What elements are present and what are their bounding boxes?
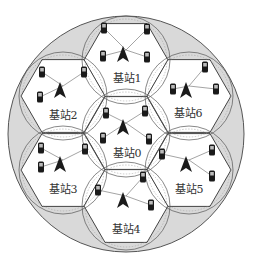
station-label-0: 基站0 bbox=[113, 144, 142, 160]
mobile-device-screen bbox=[210, 172, 214, 176]
mobile-device-screen bbox=[101, 134, 105, 138]
mobile-device-screen bbox=[101, 52, 105, 56]
mobile-device-screen bbox=[145, 25, 149, 29]
station-label-6: 基站6 bbox=[174, 104, 203, 120]
mobile-device-screen bbox=[96, 186, 100, 190]
mobile-device-screen bbox=[39, 144, 43, 148]
mobile-device-screen bbox=[38, 93, 42, 97]
mobile-device-screen bbox=[203, 63, 207, 67]
mobile-device-screen bbox=[83, 145, 87, 149]
mobile-device-screen bbox=[104, 109, 108, 113]
mobile-device-screen bbox=[171, 85, 175, 89]
mobile-device-screen bbox=[102, 24, 106, 28]
mobile-device-screen bbox=[40, 68, 44, 72]
mobile-device-screen bbox=[39, 163, 43, 167]
mobile-device-screen bbox=[210, 146, 214, 150]
mobile-device-screen bbox=[82, 68, 86, 72]
station-label-3: 基站3 bbox=[49, 180, 78, 196]
mobile-device-screen bbox=[149, 201, 153, 205]
mobile-device-screen bbox=[147, 135, 151, 139]
station-label-5: 基站5 bbox=[175, 180, 204, 196]
mobile-device-screen bbox=[143, 107, 147, 111]
mobile-device-screen bbox=[141, 173, 145, 177]
mobile-device-screen bbox=[214, 85, 218, 89]
station-label-2: 基站2 bbox=[49, 106, 78, 122]
mobile-device-screen bbox=[160, 150, 164, 154]
mobile-device-screen bbox=[145, 53, 149, 57]
station-label-4: 基站4 bbox=[112, 220, 141, 236]
station-label-1: 基站1 bbox=[113, 69, 142, 85]
